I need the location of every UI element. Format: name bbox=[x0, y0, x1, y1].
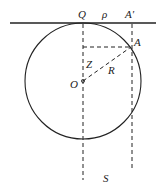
label-a: A bbox=[133, 36, 141, 48]
label-rho: ρ bbox=[101, 8, 107, 20]
geometry-diagram: Q ρ A′ A Z R O S bbox=[0, 0, 163, 193]
label-s: S bbox=[103, 172, 109, 184]
diagram-canvas: Q ρ A′ A Z R O S bbox=[0, 0, 163, 193]
label-q: Q bbox=[78, 8, 86, 20]
label-o: O bbox=[70, 78, 78, 90]
label-a-prime: A′ bbox=[124, 8, 135, 20]
label-r: R bbox=[107, 64, 115, 76]
label-z: Z bbox=[86, 58, 93, 70]
